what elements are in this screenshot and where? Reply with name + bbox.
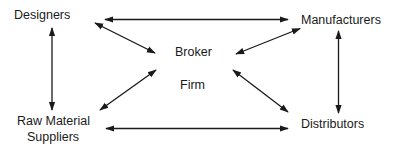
arrow-manufacturers-broker bbox=[236, 29, 300, 55]
arrow-distributors-broker bbox=[233, 70, 288, 112]
node-manufacturers: Manufacturers bbox=[301, 13, 381, 28]
node-broker-line1: Broker bbox=[175, 45, 212, 60]
node-raw-line2: Suppliers bbox=[27, 130, 79, 145]
arrow-raw-suppliers-broker bbox=[100, 70, 156, 110]
node-broker-line2: Firm bbox=[180, 78, 205, 93]
node-designers: Designers bbox=[14, 8, 70, 23]
node-raw-line1: Raw Material bbox=[17, 114, 90, 129]
arrow-designers-broker bbox=[95, 23, 155, 53]
node-distributors: Distributors bbox=[301, 117, 364, 132]
